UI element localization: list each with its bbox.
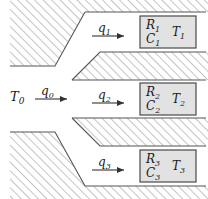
- branch-3-flow-label: q3: [98, 155, 111, 171]
- wall-upper-left: [10, 0, 85, 66]
- branch-1-flow-label: q1: [98, 21, 111, 37]
- divider-lower: [72, 118, 208, 146]
- inlet-flow-label: q0: [41, 84, 54, 100]
- wall-bottom: [85, 186, 208, 199]
- divider-upper: [72, 52, 208, 80]
- wall-top: [85, 0, 208, 12]
- branch-2-flow-label: q2: [98, 88, 111, 104]
- flow-network-figure: T0 q0 q1 q2 q3 R1 C1 T1 R2 C2 T2 R3 C3 T…: [0, 0, 208, 199]
- wall-lower-left: [10, 132, 85, 199]
- diagram-canvas: T0 q0 q1 q2 q3 R1 C1 T1 R2 C2 T2 R3 C3 T…: [0, 0, 208, 199]
- inlet-temperature-label: T0: [10, 89, 25, 106]
